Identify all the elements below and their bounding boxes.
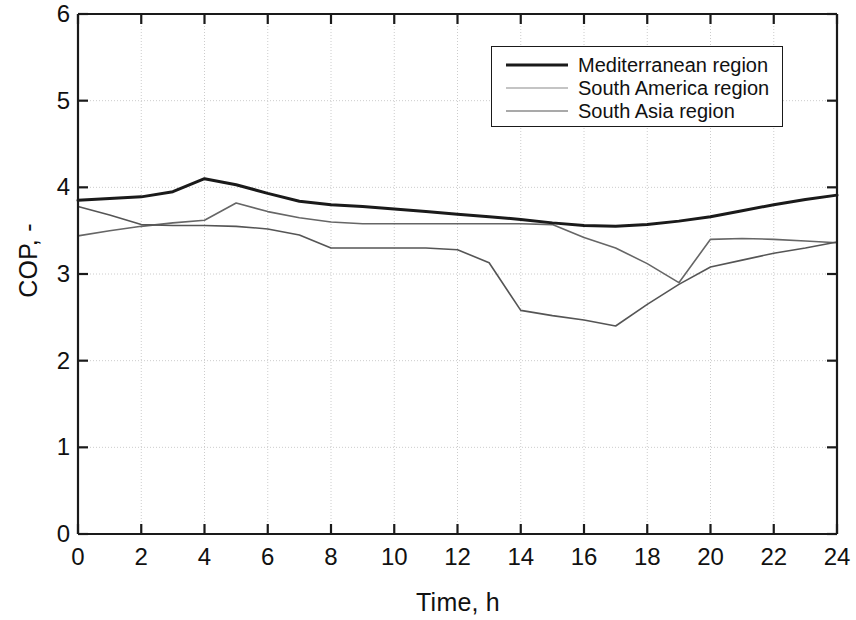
y-axis-title: COP, - <box>14 171 43 351</box>
x-tick-label: 24 <box>807 545 856 569</box>
x-axis-title: Time, h <box>78 588 838 617</box>
legend-line-swatch-south-america <box>506 82 568 94</box>
x-tick-label: 14 <box>491 545 551 569</box>
x-axis-tick-labels: 024681012141618202224 <box>0 545 856 585</box>
legend-entry-south-asia: South Asia region <box>492 99 782 122</box>
y-tick-label: 2 <box>30 349 70 373</box>
legend-entry-mediterranean: Mediterranean region <box>492 53 782 76</box>
chart-figure: 0123456 024681012141618202224 COP, - Tim… <box>0 0 856 620</box>
x-tick-label: 4 <box>175 545 235 569</box>
legend-line-swatch-south-asia <box>506 105 568 117</box>
y-tick-label: 0 <box>30 522 70 546</box>
legend-line-swatch-mediterranean <box>506 59 568 71</box>
x-tick-label: 0 <box>48 545 108 569</box>
y-tick-label: 5 <box>30 89 70 113</box>
x-tick-label: 22 <box>744 545 804 569</box>
x-tick-label: 8 <box>301 545 361 569</box>
x-tick-label: 2 <box>111 545 171 569</box>
x-tick-label: 16 <box>554 545 614 569</box>
legend-label-mediterranean: Mediterranean region <box>568 54 768 76</box>
y-tick-label: 6 <box>30 2 70 26</box>
y-tick-label: 1 <box>30 435 70 459</box>
chart-legend: Mediterranean region South America regio… <box>491 46 783 127</box>
x-tick-label: 20 <box>681 545 741 569</box>
legend-entry-south-america: South America region <box>492 76 782 99</box>
x-tick-label: 18 <box>617 545 677 569</box>
x-tick-label: 6 <box>238 545 298 569</box>
x-tick-label: 10 <box>364 545 424 569</box>
legend-label-south-asia: South Asia region <box>568 100 735 122</box>
legend-label-south-america: South America region <box>568 77 769 99</box>
x-tick-label: 12 <box>428 545 488 569</box>
